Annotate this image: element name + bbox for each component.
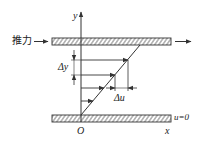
- delta-y-label: Δy: [58, 62, 68, 72]
- delta-u-dimension: [106, 60, 137, 91]
- delta-u-label: Δu: [114, 93, 125, 103]
- thrust-label: 推力: [12, 36, 32, 46]
- y-axis-label: y: [73, 11, 77, 21]
- bottom-condition-label: u=0: [174, 113, 189, 122]
- bottom-plate: [52, 115, 171, 122]
- velocity-profile-line: [81, 45, 140, 115]
- top-plate: [52, 38, 171, 45]
- delta-y-dimension: [71, 50, 81, 85]
- shear-flow-diagram: [0, 0, 204, 146]
- origin-label: O: [77, 126, 84, 136]
- x-axis-label: x: [165, 126, 169, 136]
